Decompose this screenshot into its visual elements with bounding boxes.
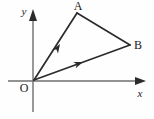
x-axis-arrowhead: [135, 77, 146, 85]
origin-label: O: [20, 82, 29, 94]
point-b-label: B: [134, 39, 142, 51]
y-axis-label: y: [22, 6, 27, 17]
segment-ab-line: [77, 13, 130, 45]
vector-oa-line: [34, 13, 77, 80]
y-axis-arrowhead: [29, 9, 37, 21]
vector-ob-arrowhead: [73, 59, 84, 68]
point-a-label: A: [74, 0, 83, 12]
diagram-canvas: [0, 0, 154, 119]
x-axis-label: x: [138, 88, 143, 99]
vector-diagram-figure: y x O A B: [0, 0, 154, 119]
